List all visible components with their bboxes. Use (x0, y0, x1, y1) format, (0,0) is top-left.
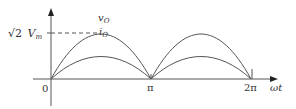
vo-label: vO (98, 12, 110, 25)
tick-label-2pi: 2π (244, 82, 257, 93)
io-label: iO (99, 26, 108, 39)
waveform-diagram: √2 Vm vO iO 0 π 2π ωt (0, 0, 296, 109)
vo-curve (51, 34, 251, 79)
x-axis-label: ωt (270, 82, 283, 93)
peak-label: √2 Vm (8, 27, 42, 41)
tick-label-pi: π (147, 82, 154, 93)
y-axis-arrow-icon (48, 8, 54, 16)
tick-label-0: 0 (42, 83, 48, 94)
